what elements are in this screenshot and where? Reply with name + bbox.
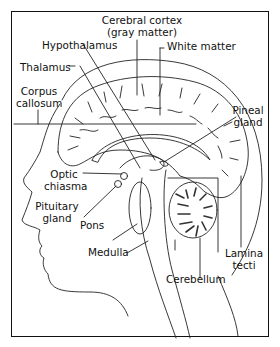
label-hypothalamus: Hypothalamus: [42, 39, 117, 51]
label-lamina-tecti: Lamina tecti: [224, 247, 264, 271]
neck-back: [218, 276, 238, 336]
label-cerebral-cortex-line1: Cerebral cortex: [92, 14, 192, 26]
label-pituitary-gland-line1: Pituitary: [32, 200, 82, 212]
label-lamina-tecti-line1: Lamina: [224, 247, 264, 259]
label-corpus-callosum: Corpus callosum: [16, 85, 62, 109]
label-pituitary-gland-line2: gland: [32, 212, 82, 224]
brainstem: [140, 178, 176, 338]
label-pineal-gland: Pineal gland: [230, 104, 266, 128]
label-optic-chiasma-line2: chiasma: [44, 180, 84, 192]
label-pineal-gland-line1: Pineal: [230, 104, 266, 116]
label-cerebellum: Cerebellum: [166, 273, 226, 285]
label-thalamus: Thalamus: [20, 61, 71, 73]
skull-outline: [62, 60, 262, 275]
cerebellum: [169, 182, 217, 238]
label-cerebral-cortex: Cerebral cortex (gray matter): [92, 14, 192, 38]
brain-illustration: [0, 0, 280, 347]
corpus-callosum: [92, 134, 210, 162]
label-medulla: Medulla: [88, 246, 129, 258]
label-cerebral-cortex-line2: (gray matter): [92, 26, 192, 38]
label-corpus-callosum-line2: callosum: [16, 97, 62, 109]
label-optic-chiasma-line1: Optic: [44, 168, 84, 180]
label-lamina-tecti-line2: tecti: [224, 259, 264, 271]
label-white-matter: White matter: [167, 40, 236, 52]
label-optic-chiasma: Optic chiasma: [44, 168, 84, 192]
label-pons: Pons: [80, 219, 104, 231]
label-pineal-gland-line2: gland: [230, 116, 266, 128]
label-pituitary-gland: Pituitary gland: [32, 200, 82, 224]
label-corpus-callosum-line1: Corpus: [16, 85, 62, 97]
